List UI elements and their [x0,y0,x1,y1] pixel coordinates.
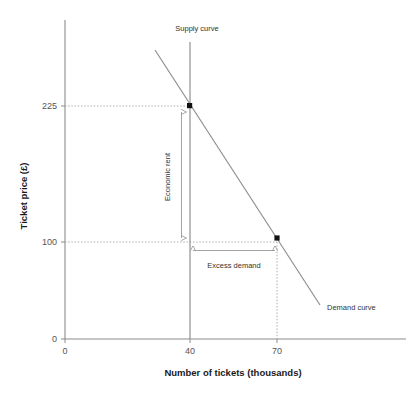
y-tick-label-225: 225 [42,101,57,111]
x-axis-title: Number of tickets (thousands) [164,367,301,378]
chart-page: 225 100 0 0 40 70 Number of tickets (tho… [0,0,420,395]
excess-demand-label: Excess demand [207,261,260,270]
equilibrium-point-marker [187,103,192,108]
y-tick-label-0: 0 [52,334,57,344]
x-tick-label-70: 70 [272,346,282,356]
economics-supply-demand-chart: 225 100 0 0 40 70 Number of tickets (tho… [0,0,420,395]
demand-point-marker [274,235,279,240]
x-tick-label-0: 0 [62,346,67,356]
x-tick-label-40: 40 [185,346,195,356]
demand-curve-label: Demand curve [327,303,376,312]
y-axis-title: Ticket price (£) [18,163,29,230]
supply-curve-label: Supply curve [175,24,218,33]
y-tick-label-100: 100 [42,237,57,247]
economic-rent-label: Economic rent [163,152,172,201]
